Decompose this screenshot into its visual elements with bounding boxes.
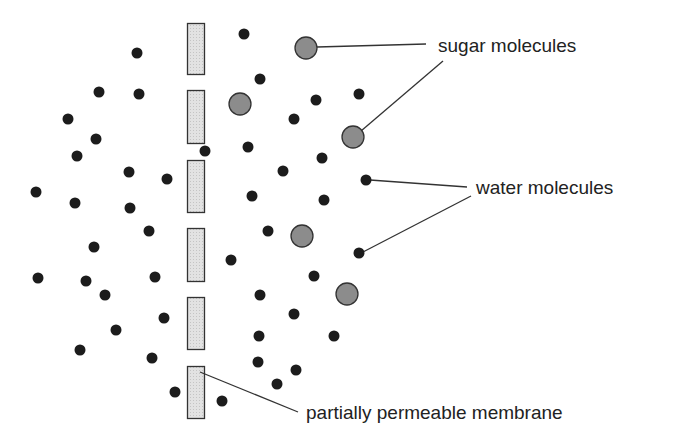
- sugar-molecules: [229, 37, 364, 305]
- water-molecule: [162, 174, 173, 185]
- leader-line: [361, 61, 443, 131]
- water-molecule: [200, 146, 211, 157]
- water-molecule: [289, 114, 300, 125]
- water-molecule: [291, 365, 302, 376]
- water-molecule: [91, 134, 102, 145]
- water-molecule: [255, 290, 266, 301]
- water-molecule: [100, 290, 111, 301]
- membrane-label: partially permeable membrane: [306, 402, 563, 423]
- water-molecule: [31, 187, 42, 198]
- leader-line: [200, 372, 298, 412]
- water-molecule: [89, 242, 100, 253]
- water-molecule: [125, 203, 136, 214]
- membrane-segment: [188, 229, 205, 282]
- osmosis-diagram: sugar molecules water molecules partiall…: [0, 0, 674, 442]
- water-molecule: [253, 357, 264, 368]
- water-molecule: [247, 191, 258, 202]
- partially-permeable-membrane: [188, 24, 205, 419]
- water-molecule: [278, 166, 289, 177]
- membrane-segment: [188, 367, 205, 419]
- leader-line: [363, 196, 471, 252]
- water-molecule: [150, 272, 161, 283]
- water-molecule: [72, 151, 83, 162]
- sugar-molecule: [229, 93, 251, 115]
- water-molecule: [217, 396, 228, 407]
- water-molecule: [243, 142, 254, 153]
- water-molecule: [329, 331, 340, 342]
- water-molecule: [361, 175, 372, 186]
- membrane-segment: [188, 24, 205, 75]
- water-molecule: [132, 48, 143, 59]
- water-molecule: [226, 255, 237, 266]
- membrane-segment: [188, 91, 205, 144]
- water-molecule: [144, 226, 155, 237]
- membrane-segment: [188, 161, 205, 213]
- water-molecule: [263, 226, 274, 237]
- water-molecule: [81, 276, 92, 287]
- water-molecule: [354, 89, 365, 100]
- water-molecule: [170, 387, 181, 398]
- water-molecule: [255, 74, 266, 85]
- water-molecules-label: water molecules: [475, 177, 613, 198]
- sugar-molecule: [291, 225, 313, 247]
- water-molecule: [94, 87, 105, 98]
- sugar-molecules-label: sugar molecules: [438, 35, 576, 56]
- water-molecule: [75, 345, 86, 356]
- water-molecule: [254, 331, 265, 342]
- water-molecule: [134, 89, 145, 100]
- sugar-molecule: [295, 37, 317, 59]
- water-molecule: [63, 114, 74, 125]
- water-molecule: [124, 167, 135, 178]
- leader-line: [370, 180, 467, 187]
- water-molecule: [147, 353, 158, 364]
- sugar-molecule: [336, 283, 358, 305]
- water-molecule: [70, 198, 81, 209]
- water-molecule: [311, 95, 322, 106]
- water-molecule: [239, 29, 250, 40]
- water-molecule: [319, 195, 330, 206]
- water-molecule: [354, 248, 365, 259]
- water-molecule: [272, 379, 283, 390]
- water-molecule: [159, 313, 170, 324]
- membrane-segment: [188, 298, 205, 350]
- water-molecule: [309, 271, 320, 282]
- sugar-molecule: [342, 126, 364, 148]
- water-molecule: [317, 153, 328, 164]
- water-molecule: [111, 325, 122, 336]
- water-molecule: [289, 309, 300, 320]
- leader-line: [317, 44, 426, 47]
- water-molecule: [33, 273, 44, 284]
